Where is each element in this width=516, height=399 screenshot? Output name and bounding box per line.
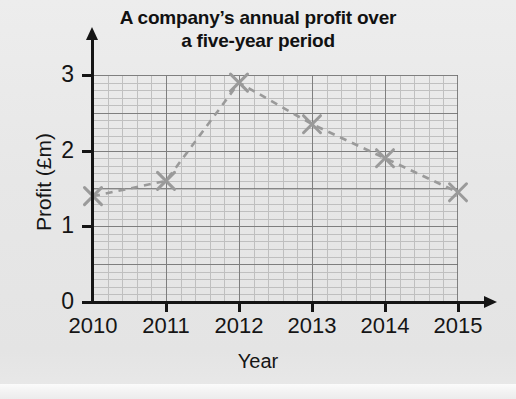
y-axis-tick	[82, 74, 93, 77]
y-axis-arrow	[86, 27, 98, 40]
y-axis-tick	[82, 225, 93, 228]
y-axis-tick-label: 3	[48, 63, 74, 86]
x-axis-tick-label: 2012	[199, 315, 279, 337]
y-axis-tick	[82, 150, 93, 153]
chart-page: A company’s annual profit over a five-ye…	[0, 0, 516, 399]
x-axis-line	[91, 301, 486, 304]
x-axis-tick	[311, 301, 314, 312]
x-axis-arrow	[484, 296, 497, 308]
chart-title: A company’s annual profit over a five-ye…	[0, 6, 516, 52]
chart-title-line-1: A company’s annual profit over	[120, 7, 397, 28]
data-point-marker	[231, 74, 248, 91]
series-line	[93, 83, 458, 197]
data-point-marker	[377, 150, 394, 167]
x-axis-tick-label: 2010	[53, 315, 133, 337]
page-bottom-edge	[0, 384, 516, 399]
y-axis-line	[91, 38, 94, 304]
x-axis-tick-label: 2014	[345, 315, 425, 337]
x-axis-tick	[165, 301, 168, 312]
x-axis-tick-label: 2013	[272, 315, 352, 337]
x-axis-tick	[384, 301, 387, 312]
x-axis-tick-label: 2011	[126, 315, 206, 337]
x-axis-tick	[457, 301, 460, 312]
y-axis-title: Profit (£m)	[32, 102, 56, 262]
y-axis-tick-label: 0	[48, 290, 74, 313]
x-axis-tick-label: 2015	[418, 315, 498, 337]
plot-area	[93, 75, 458, 302]
x-axis-title: Year	[0, 350, 516, 373]
data-point-marker	[450, 184, 467, 201]
data-point-marker	[304, 116, 321, 133]
data-series	[79, 61, 472, 316]
series-markers	[85, 74, 467, 205]
x-axis-tick	[238, 301, 241, 312]
chart-title-line-2: a five-year period	[0, 29, 516, 52]
